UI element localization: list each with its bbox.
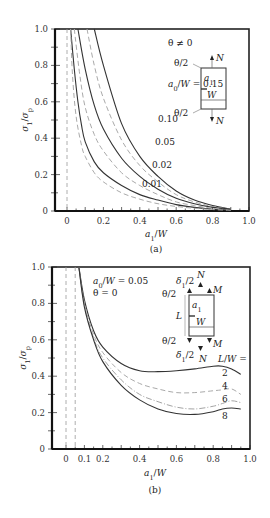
y-tick-label: 0.8 (31, 298, 45, 308)
x-tick-label: 0.6 (169, 216, 183, 226)
specimen-inset: a1WLδ1/2δ1/2θ/2θ/2NMMN (162, 270, 223, 364)
series-label: 4 (222, 381, 228, 391)
x-tick-label: 0.2 (96, 454, 110, 464)
figure-caption: (a) (150, 244, 162, 254)
svg-text:δ1/2: δ1/2 (176, 276, 194, 290)
chart-b: 00.20.40.60.81.000.10.20.40.60.81.0a1/Wσ… (18, 262, 257, 495)
annotation: θ = 0 (93, 288, 118, 298)
x-tick-label: 0.2 (97, 216, 111, 226)
y-tick-label: 0.6 (34, 97, 48, 107)
x-tick-label: 1.0 (242, 216, 256, 226)
x-tick-label: 0.8 (206, 216, 220, 226)
x-axis-label: a1/W (145, 229, 168, 243)
y-tick-label: 0.4 (31, 371, 45, 381)
svg-text:θ/2: θ/2 (162, 289, 176, 299)
svg-text:L: L (175, 311, 182, 321)
y-tick-label: 0.6 (31, 335, 45, 345)
svg-text:W: W (196, 317, 206, 327)
x-axis-label: a1/W (144, 468, 167, 482)
svg-text:N: N (215, 53, 225, 63)
svg-text:θ/2: θ/2 (162, 336, 176, 346)
series-label: 6 (222, 394, 228, 404)
legend-title: L/W = (217, 354, 247, 364)
y-tick-label: 1.0 (34, 24, 48, 34)
y-tick-label: 1.0 (31, 262, 45, 272)
y-tick-label: 0.4 (34, 133, 48, 143)
specimen-inset: a1Wθ/2θ/2NN (174, 53, 226, 126)
y-axis-label: σ1/σp (20, 108, 34, 132)
svg-text:N: N (198, 354, 208, 364)
y-tick-label: 0.8 (34, 60, 48, 70)
x-tick-label: 0.4 (133, 454, 147, 464)
y-tick-label: 0 (43, 206, 48, 216)
svg-text:δ1/2: δ1/2 (176, 350, 194, 364)
annotation: θ ≠ 0 (168, 38, 193, 48)
series-label: 8 (222, 411, 228, 421)
svg-text:W: W (207, 90, 217, 100)
svg-text:M: M (212, 285, 223, 295)
svg-text:θ/2: θ/2 (174, 58, 188, 68)
figure: 00.20.40.60.81.000.20.40.60.81.0a1/Wσ1/σ… (0, 0, 270, 518)
x-tick-label: 0 (64, 216, 69, 226)
y-tick-label: 0.2 (31, 408, 45, 418)
x-tick-label: 0.8 (206, 454, 220, 464)
svg-text:θ/2: θ/2 (174, 108, 188, 118)
x-tick-label: 0.4 (133, 216, 147, 226)
y-axis-label: σ1/σp (18, 346, 32, 370)
y-tick-label: 0.2 (34, 170, 48, 180)
figure-caption: (b) (149, 485, 162, 495)
x-tick-label: 0.6 (170, 454, 184, 464)
x-tick-label: 0.1 (78, 454, 92, 464)
series-label: 0.05 (155, 137, 175, 147)
chart-a: 00.20.40.60.81.000.20.40.60.81.0a1/Wσ1/σ… (20, 24, 256, 254)
series-label: 0.02 (152, 160, 172, 170)
x-tick-label: 0 (63, 454, 68, 464)
svg-text:M: M (212, 339, 223, 349)
svg-text:N: N (215, 116, 225, 126)
series-label: 2 (222, 368, 228, 378)
y-tick-label: 0 (40, 444, 45, 454)
svg-text:a1: a1 (192, 300, 202, 314)
x-tick-label: 1.0 (243, 454, 257, 464)
series-label: 0.01 (142, 179, 162, 189)
svg-text:N: N (196, 270, 206, 280)
